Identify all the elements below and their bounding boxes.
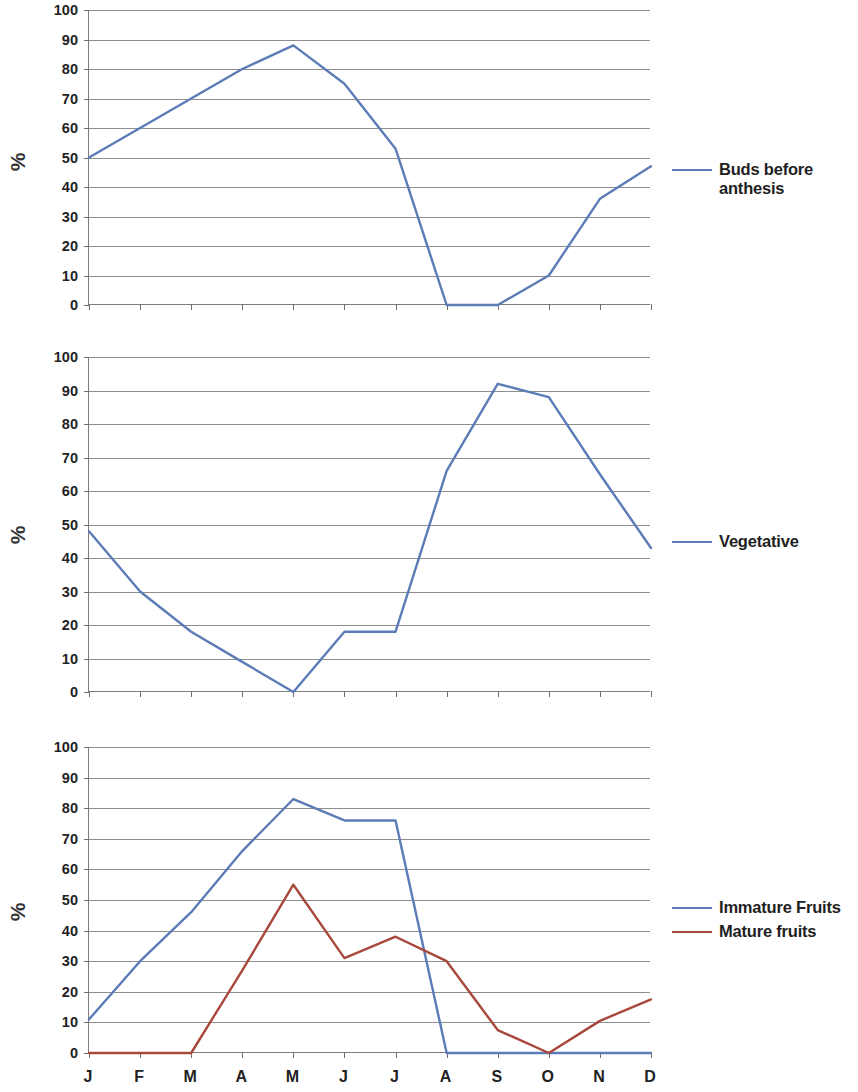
chart-panel-fruits: % 0102030405060708090100 JFMAMJJASOND Im… [0, 710, 858, 1092]
legend-label: Mature fruits [719, 922, 816, 941]
x-axis-tick [651, 304, 652, 310]
plot-area [88, 747, 650, 1053]
x-tick-label: A [440, 1069, 452, 1085]
y-tick-label: 30 [62, 209, 78, 224]
x-tick-label: S [491, 1069, 502, 1085]
y-tick-label: 60 [62, 862, 78, 877]
y-tick-label: 0 [70, 1046, 78, 1061]
y-tick-label: 30 [62, 954, 78, 969]
x-tick-label: M [184, 1069, 197, 1085]
y-tick-label: 0 [70, 685, 78, 700]
x-tick-label: J [84, 1069, 93, 1085]
y-axis-title: % [6, 515, 30, 555]
y-tick-label: 20 [62, 985, 78, 1000]
y-tick-label: 100 [54, 3, 78, 18]
y-tick-label: 70 [62, 91, 78, 106]
x-tick-label: O [542, 1069, 554, 1085]
chart-lines [89, 357, 651, 692]
y-tick-label: 50 [62, 893, 78, 908]
y-tick-label: 50 [62, 150, 78, 165]
legend-color-swatch [672, 169, 712, 171]
y-tick-label: 10 [62, 1015, 78, 1030]
series-line [89, 885, 651, 1053]
y-tick-label: 40 [62, 923, 78, 938]
y-tick-label: 10 [62, 651, 78, 666]
y-tick-label: 90 [62, 32, 78, 47]
legend-color-swatch [672, 541, 712, 543]
y-tick-label: 60 [62, 484, 78, 499]
legend-color-swatch [672, 907, 712, 909]
y-axis-title: % [6, 142, 30, 182]
series-line [89, 45, 651, 305]
y-tick-label: 0 [70, 298, 78, 313]
legend-item: Immature Fruits [672, 898, 841, 917]
x-tick-label: D [644, 1069, 656, 1085]
y-tick-label: 20 [62, 239, 78, 254]
y-tick-label: 50 [62, 517, 78, 532]
legend-label: Vegetative [719, 532, 799, 551]
chart-lines [89, 747, 651, 1053]
legend-color-swatch [672, 931, 712, 933]
y-tick-label: 60 [62, 121, 78, 136]
y-tick-label: 30 [62, 584, 78, 599]
y-tick-label: 40 [62, 180, 78, 195]
chart-lines [89, 10, 651, 305]
y-tick-label: 40 [62, 551, 78, 566]
x-axis-tick [651, 691, 652, 697]
y-tick-label: 80 [62, 417, 78, 432]
plot-area [88, 357, 650, 692]
y-tick-label: 80 [62, 62, 78, 77]
y-tick-label: 100 [54, 740, 78, 755]
legend-label: Buds before anthesis [719, 160, 829, 199]
y-tick-label: 100 [54, 350, 78, 365]
figure-three-panel-phenology-chart: % 0102030405060708090100 Buds before ant… [0, 0, 858, 1092]
plot-area [88, 10, 650, 305]
legend-item: Buds before anthesis [672, 160, 829, 199]
y-tick-label: 80 [62, 801, 78, 816]
chart-panel-buds-before-anthesis: % 0102030405060708090100 Buds before ant… [0, 0, 858, 340]
x-tick-label: F [134, 1069, 144, 1085]
x-tick-label: A [235, 1069, 247, 1085]
y-axis-title: % [6, 892, 30, 932]
y-tick-label: 90 [62, 383, 78, 398]
y-axis-tick-labels: 0102030405060708090100 [34, 0, 78, 325]
y-tick-label: 70 [62, 450, 78, 465]
y-tick-label: 70 [62, 832, 78, 847]
x-tick-label: J [339, 1069, 348, 1085]
series-line [89, 799, 651, 1053]
x-tick-label: J [390, 1069, 399, 1085]
legend-item: Vegetative [672, 532, 799, 551]
x-tick-label: M [286, 1069, 299, 1085]
y-tick-label: 10 [62, 268, 78, 283]
legend-label: Immature Fruits [719, 898, 841, 917]
x-tick-label: N [593, 1069, 605, 1085]
legend-item: Mature fruits [672, 922, 816, 941]
y-axis-tick-labels: 0102030405060708090100 [34, 710, 78, 1073]
y-axis-tick-labels: 0102030405060708090100 [34, 340, 78, 712]
y-tick-label: 90 [62, 770, 78, 785]
y-tick-label: 20 [62, 618, 78, 633]
chart-panel-vegetative: % 0102030405060708090100 Vegetative [0, 340, 858, 710]
series-line [89, 384, 651, 692]
